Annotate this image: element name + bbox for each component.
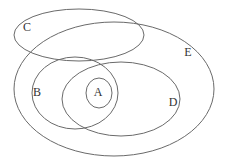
set-C: C <box>14 9 144 61</box>
set-C-label: C <box>23 20 31 34</box>
venn-diagram: E C B D A <box>0 0 226 168</box>
set-D: D <box>62 62 180 136</box>
set-A-label: A <box>94 85 103 99</box>
set-B: B <box>32 57 118 129</box>
set-D-label: D <box>169 95 178 109</box>
set-D-outline <box>62 62 180 136</box>
set-B-label: B <box>33 85 41 99</box>
set-B-outline <box>32 57 118 129</box>
set-E-label: E <box>184 45 191 59</box>
set-A: A <box>86 78 112 108</box>
set-C-outline <box>14 9 144 61</box>
